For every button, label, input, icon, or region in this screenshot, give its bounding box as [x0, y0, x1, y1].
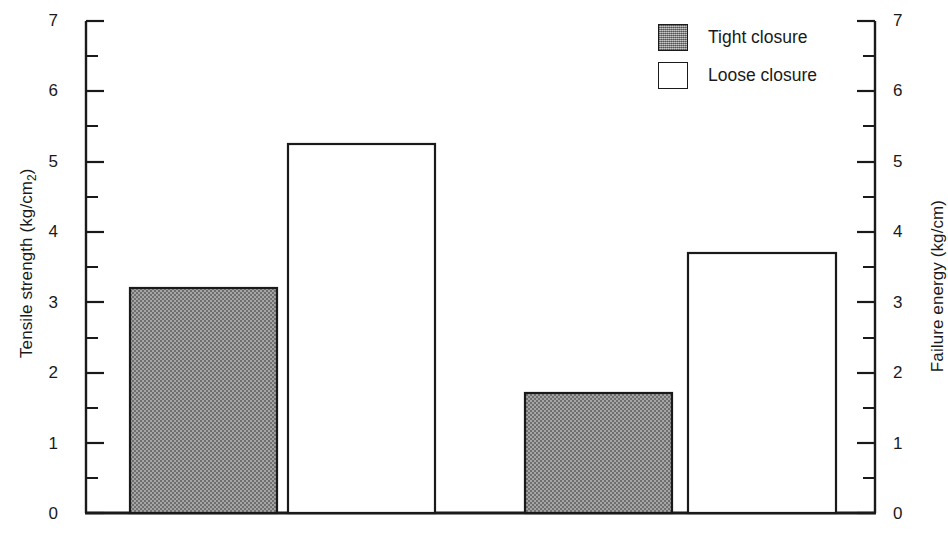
bar-loose-tensile — [288, 144, 435, 513]
legend-swatch-filled-icon — [658, 24, 688, 51]
right-minor-ticks — [863, 56, 875, 478]
legend-label-tight-closure: Tight closure — [708, 27, 808, 48]
legend-item-tight-closure: Tight closure — [658, 18, 817, 56]
chart-legend: Tight closure Loose closure — [658, 18, 817, 94]
legend-item-loose-closure: Loose closure — [658, 56, 817, 94]
legend-label-loose-closure: Loose closure — [708, 65, 817, 86]
legend-swatch-hollow-icon — [658, 62, 688, 89]
left-minor-ticks — [86, 56, 98, 478]
bar-loose-failure — [688, 253, 836, 513]
bar-tight-failure — [525, 393, 672, 513]
bar-tight-tensile — [130, 288, 277, 513]
